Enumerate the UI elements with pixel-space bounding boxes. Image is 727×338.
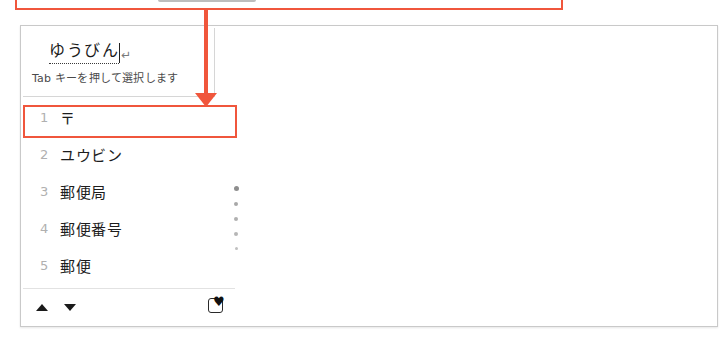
candidate-label: 郵便局 [60, 181, 107, 202]
triangle-up-glyph [36, 304, 48, 311]
composition-row: ゆうびん ↵ [49, 36, 131, 64]
composition-text: ゆうびん [49, 40, 119, 64]
scroll-dot [235, 247, 238, 250]
candidate-item-3[interactable]: 3 郵便局 [23, 173, 235, 210]
scroll-indicator-dots[interactable] [230, 186, 242, 264]
candidate-index: 3 [40, 184, 60, 199]
candidate-label: ユウビン [60, 144, 122, 165]
annotation-arrow-line [204, 9, 208, 98]
candidate-label: 郵便番号 [60, 218, 122, 239]
composition-area[interactable]: ゆうびん ↵ Tab キーを押して選択します [23, 28, 215, 97]
return-mark-icon: ↵ [121, 48, 131, 62]
ime-toolbar: ♥ [23, 288, 235, 325]
candidate-item-2[interactable]: 2 ユウビン [23, 136, 235, 173]
scroll-dot [234, 217, 238, 221]
triangle-down-glyph [64, 304, 76, 311]
annotation-box-top [15, 0, 563, 10]
ime-candidate-window: ゆうびん ↵ Tab キーを押して選択します 1 〒 2 ユウビン 3 郵便局 … [20, 25, 718, 327]
candidate-index: 4 [40, 221, 60, 236]
annotation-box-candidate-1 [23, 105, 237, 138]
triangle-up-icon[interactable] [32, 297, 52, 317]
tab-hint-label: Tab キーを押して選択します [32, 69, 178, 85]
candidate-index: 5 [40, 258, 60, 273]
candidate-item-4[interactable]: 4 郵便番号 [23, 210, 235, 247]
scroll-dot [234, 232, 238, 236]
ime-pad-heart-glyph: ♥ [213, 295, 226, 308]
ime-pad-icon[interactable]: ♥ [206, 294, 228, 316]
scroll-dot [234, 186, 239, 191]
scroll-dot [234, 202, 238, 206]
candidate-index: 2 [40, 147, 60, 162]
screenshot-root: ゆうびん ↵ Tab キーを押して選択します 1 〒 2 ユウビン 3 郵便局 … [0, 0, 727, 338]
candidate-label: 郵便 [60, 255, 91, 276]
text-caret [119, 43, 120, 63]
triangle-down-icon[interactable] [60, 297, 80, 317]
candidate-item-5[interactable]: 5 郵便 [23, 247, 235, 284]
